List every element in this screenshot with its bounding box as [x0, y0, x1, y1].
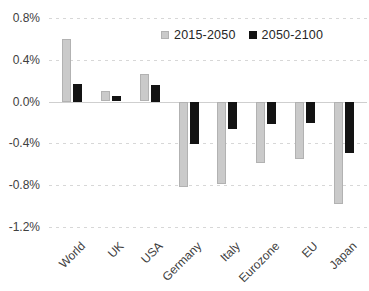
x-category-label-eurozone: Eurozone [236, 239, 282, 285]
x-category-label-eu: EU [299, 239, 321, 261]
x-category-label-germany: Germany [160, 239, 205, 284]
demographics-growth-bar-chart: 2015-2050 2050-2100 0.8%0.4%0.0%-0.4%-0.… [0, 0, 369, 291]
x-category-label-usa: USA [138, 239, 165, 266]
x-category-label-uk: UK [105, 239, 127, 261]
chart-legend: 2015-2050 2050-2100 [161, 28, 323, 42]
legend-swatch-gray [161, 31, 169, 39]
x-category-label-italy: Italy [218, 239, 243, 264]
legend-label-2050-2100: 2050-2100 [262, 28, 324, 42]
x-category-label-world: World [56, 239, 88, 271]
x-category-label-japan: Japan [327, 239, 360, 272]
legend-item-2015-2050: 2015-2050 [161, 28, 236, 42]
legend-item-2050-2100: 2050-2100 [249, 28, 324, 42]
legend-swatch-black [249, 31, 257, 39]
legend-label-2015-2050: 2015-2050 [174, 28, 236, 42]
x-axis: WorldUKUSAGermanyItalyEurozoneEUJapan [0, 0, 369, 291]
